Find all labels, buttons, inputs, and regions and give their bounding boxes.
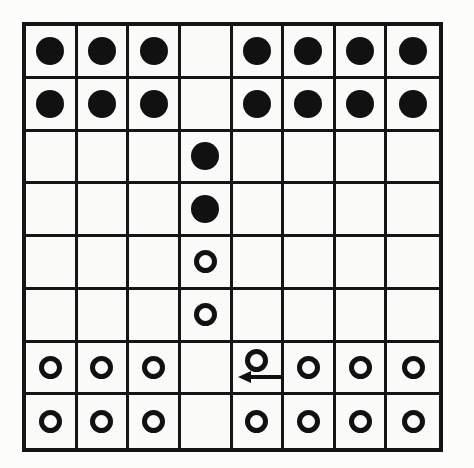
board-cell[interactable] (233, 237, 285, 290)
board-cell[interactable] (284, 343, 336, 396)
board-cell[interactable] (336, 184, 388, 237)
white-piece-icon[interactable] (90, 356, 113, 379)
board-cell[interactable] (78, 184, 130, 237)
white-piece-icon[interactable] (349, 410, 372, 433)
white-piece-icon[interactable] (245, 349, 268, 372)
board-cell[interactable] (129, 395, 181, 448)
board-cell[interactable] (26, 132, 78, 185)
board-cell[interactable] (284, 26, 336, 79)
board-cell[interactable] (387, 79, 439, 132)
board-cell[interactable] (26, 79, 78, 132)
board-cell[interactable] (284, 290, 336, 343)
board-cell[interactable] (233, 132, 285, 185)
board-cell[interactable] (387, 343, 439, 396)
board-cell[interactable] (233, 184, 285, 237)
white-piece-icon[interactable] (39, 410, 62, 433)
black-piece-icon[interactable] (88, 37, 116, 65)
board-cell[interactable] (336, 343, 388, 396)
board-cell[interactable] (233, 290, 285, 343)
board-cell[interactable] (26, 26, 78, 79)
board-cell[interactable] (387, 132, 439, 185)
board-cell[interactable] (387, 395, 439, 448)
board-cell[interactable] (78, 395, 130, 448)
board-cell[interactable] (129, 290, 181, 343)
black-piece-icon[interactable] (346, 37, 374, 65)
board-cell[interactable] (129, 184, 181, 237)
board-cell[interactable] (129, 343, 181, 396)
board-cell[interactable] (78, 290, 130, 343)
board-cell[interactable] (129, 237, 181, 290)
board-cell[interactable] (181, 184, 233, 237)
board-cell[interactable] (387, 237, 439, 290)
board-cell[interactable] (129, 79, 181, 132)
board-cell[interactable] (78, 79, 130, 132)
board-cell[interactable] (233, 79, 285, 132)
board-cell[interactable] (181, 290, 233, 343)
board-cell[interactable] (181, 132, 233, 185)
board-cell[interactable] (336, 237, 388, 290)
figure-title: Eight by eight puzzle board with black a… (0, 0, 1, 1)
black-piece-icon[interactable] (294, 37, 322, 65)
black-piece-icon[interactable] (36, 90, 64, 118)
game-board[interactable] (22, 22, 443, 452)
board-cell[interactable] (181, 395, 233, 448)
black-piece-icon[interactable] (36, 37, 64, 65)
board-cell[interactable] (336, 290, 388, 343)
white-piece-icon[interactable] (402, 356, 425, 379)
white-piece-icon[interactable] (142, 410, 165, 433)
board-cell[interactable] (336, 395, 388, 448)
board-cell[interactable] (26, 395, 78, 448)
white-piece-icon[interactable] (90, 410, 113, 433)
board-cell[interactable] (284, 132, 336, 185)
black-piece-icon[interactable] (294, 90, 322, 118)
board-cell[interactable] (181, 237, 233, 290)
black-piece-icon[interactable] (346, 90, 374, 118)
board-cell[interactable] (26, 184, 78, 237)
board-cell[interactable] (233, 26, 285, 79)
board-cell[interactable] (284, 395, 336, 448)
board-cell[interactable] (336, 79, 388, 132)
board-cell[interactable] (387, 290, 439, 343)
board-cell[interactable] (78, 132, 130, 185)
black-piece-icon[interactable] (399, 37, 427, 65)
board-cell[interactable] (233, 343, 285, 396)
black-piece-icon[interactable] (191, 142, 219, 170)
black-piece-icon[interactable] (140, 37, 168, 65)
black-piece-icon[interactable] (243, 37, 271, 65)
black-piece-icon[interactable] (88, 90, 116, 118)
white-piece-icon[interactable] (142, 356, 165, 379)
white-piece-icon[interactable] (245, 410, 268, 433)
board-cell[interactable] (336, 132, 388, 185)
white-piece-icon[interactable] (39, 356, 62, 379)
board-cell[interactable] (26, 237, 78, 290)
board-cell[interactable] (284, 237, 336, 290)
arrow-shaft (247, 375, 283, 379)
white-piece-icon[interactable] (402, 410, 425, 433)
board-cell[interactable] (129, 132, 181, 185)
white-piece-icon[interactable] (349, 356, 372, 379)
white-piece-icon[interactable] (297, 410, 320, 433)
board-cell[interactable] (181, 343, 233, 396)
board-cell[interactable] (181, 79, 233, 132)
board-cell[interactable] (78, 343, 130, 396)
board-cell[interactable] (387, 184, 439, 237)
board-cell[interactable] (26, 290, 78, 343)
board-cell[interactable] (387, 26, 439, 79)
board-cell[interactable] (181, 26, 233, 79)
arrow-head (238, 371, 251, 383)
board-cell[interactable] (284, 79, 336, 132)
board-cell[interactable] (233, 395, 285, 448)
board-cell[interactable] (129, 26, 181, 79)
black-piece-icon[interactable] (399, 90, 427, 118)
board-cell[interactable] (284, 184, 336, 237)
black-piece-icon[interactable] (243, 90, 271, 118)
white-piece-icon[interactable] (194, 303, 217, 326)
black-piece-icon[interactable] (191, 195, 219, 223)
board-cell[interactable] (336, 26, 388, 79)
black-piece-icon[interactable] (140, 90, 168, 118)
white-piece-icon[interactable] (297, 356, 320, 379)
board-cell[interactable] (78, 26, 130, 79)
board-cell[interactable] (26, 343, 78, 396)
board-cell[interactable] (78, 237, 130, 290)
white-piece-icon[interactable] (194, 250, 217, 273)
